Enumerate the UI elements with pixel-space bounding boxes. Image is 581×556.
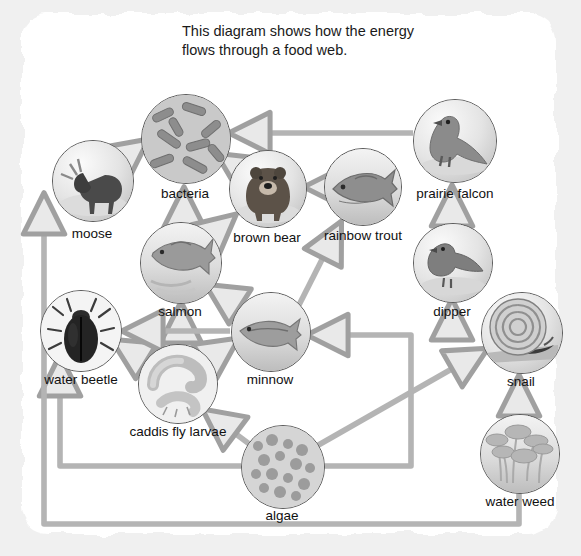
title-line-2: flows through a food web. <box>182 41 442 60</box>
diagram-canvas: moose bacteria <box>0 0 581 556</box>
node-label-algae: algae <box>242 508 322 523</box>
caddis-icon <box>138 344 218 424</box>
node-label-caddis-fly-larvae: caddis fly larvae <box>114 424 242 439</box>
bacteria-icon <box>141 94 231 184</box>
title-line-1: This diagram shows how the energy <box>182 22 442 41</box>
node-label-prairie-falcon: prairie falcon <box>398 186 512 201</box>
minnow-icon <box>231 292 311 372</box>
node-label-bacteria: bacteria <box>135 186 235 201</box>
page-title: This diagram shows how the energy flows … <box>182 22 442 60</box>
moose-icon <box>52 140 134 222</box>
node-label-rainbow-trout: rainbow trout <box>307 228 419 243</box>
snail-icon <box>481 292 563 374</box>
node-label-water-weed: water weed <box>464 494 576 509</box>
node-label-salmon: salmon <box>135 304 225 319</box>
node-label-water-beetle: water beetle <box>25 372 137 387</box>
node-label-moose: moose <box>42 226 142 241</box>
node-label-brown-bear: brown bear <box>212 230 322 245</box>
dipper-icon <box>413 223 493 303</box>
trout-icon <box>324 148 402 226</box>
waterweed-icon <box>480 414 560 494</box>
node-label-minnow: minnow <box>226 372 314 387</box>
salmon-icon <box>140 222 222 304</box>
edge-algae-to-snail <box>315 350 485 447</box>
bear-icon <box>229 150 307 228</box>
beetle-icon <box>40 290 122 372</box>
falcon-icon <box>413 99 497 183</box>
algae-icon <box>241 425 325 509</box>
node-label-snail: snail <box>481 374 561 389</box>
